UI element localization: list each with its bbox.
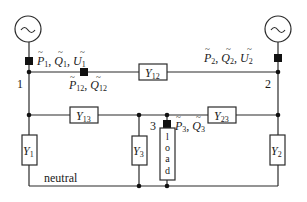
svg-text:~: ~ — [70, 72, 75, 82]
measurement-marker-2 — [274, 54, 282, 62]
svg-text:~: ~ — [205, 44, 210, 54]
junction-dot — [137, 113, 142, 118]
junction-dot — [137, 184, 142, 189]
admittance-y23: Y23 — [208, 107, 236, 124]
svg-text:~: ~ — [226, 44, 231, 54]
ac-source-icon — [265, 16, 291, 42]
admittance-y12: Y12 — [139, 64, 167, 81]
node-dot-1 — [27, 70, 32, 75]
node-label-2: 2 — [265, 77, 271, 91]
svg-text:~: ~ — [58, 47, 63, 57]
svg-text:~: ~ — [247, 44, 252, 54]
measurement-label-1: P1, Q1, U1 ~ ~ ~ — [36, 47, 86, 69]
node-dot-3 — [165, 113, 170, 118]
circuit-diagram: Y12 Y13 Y23 Y1 Y3 Y2 l o a d 1 2 3 P1, Q… — [0, 0, 307, 202]
measurement-marker-3 — [163, 120, 171, 128]
measurement-label-2: P2, Q2, U2 ~ ~ ~ — [203, 44, 253, 66]
node-label-3: 3 — [150, 119, 156, 133]
svg-text:l: l — [166, 131, 169, 142]
ac-source-icon — [15, 16, 41, 42]
admittance-y3: Y3 — [132, 136, 147, 165]
admittance-y1: Y1 — [22, 135, 37, 165]
svg-text:o: o — [165, 142, 170, 153]
svg-text:~: ~ — [96, 72, 101, 82]
svg-text:d: d — [165, 165, 170, 176]
source-1 — [15, 16, 41, 42]
node-label-1: 1 — [17, 77, 23, 91]
admittance-y13: Y13 — [70, 107, 98, 124]
junction-dot — [27, 113, 32, 118]
source-2 — [265, 16, 291, 42]
load-box: l o a d — [160, 128, 175, 180]
measurement-marker-12 — [80, 68, 88, 76]
svg-text:~: ~ — [38, 47, 43, 57]
admittance-y2: Y2 — [270, 135, 285, 165]
svg-text:~: ~ — [176, 112, 181, 122]
measurement-marker-1 — [25, 57, 33, 65]
junction-dot — [276, 113, 281, 118]
svg-text:~: ~ — [196, 112, 201, 122]
svg-text:~: ~ — [80, 47, 85, 57]
svg-text:a: a — [165, 153, 170, 164]
node-dot-2 — [276, 70, 281, 75]
neutral-label: neutral — [44, 171, 78, 185]
junction-dot — [165, 184, 170, 189]
